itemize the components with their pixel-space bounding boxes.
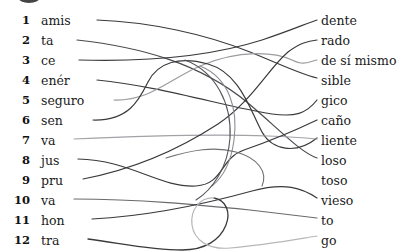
right-word-item[interactable]: toso — [321, 173, 348, 188]
right-word-column: dente rado de sí mismo sible gico caño l… — [321, 0, 402, 252]
connector-line-3[interactable] — [79, 20, 317, 60]
row-number: 4 — [0, 70, 30, 90]
left-word-item[interactable]: jus — [41, 153, 59, 168]
connector-line-1[interactable] — [97, 20, 317, 78]
connector-line-5[interactable] — [114, 54, 317, 100]
left-word-item[interactable]: pru — [41, 173, 63, 188]
left-word-item[interactable]: va — [41, 193, 56, 208]
connector-line-8[interactable] — [78, 120, 317, 186]
right-word-item[interactable]: to — [321, 213, 334, 228]
row-number: 8 — [0, 150, 30, 170]
left-word-item[interactable]: va — [41, 133, 56, 148]
row-number: 7 — [0, 130, 30, 150]
row-number: 2 — [0, 30, 30, 50]
right-word-item[interactable]: loso — [321, 153, 346, 168]
left-word-item[interactable]: ce — [41, 53, 55, 68]
connector-line-9[interactable] — [83, 40, 317, 179]
connector-line-6[interactable] — [93, 61, 317, 149]
connector-loop-b — [166, 149, 264, 186]
left-word-item[interactable]: amis — [41, 13, 71, 28]
row-number: 10 — [0, 190, 30, 210]
row-number: 5 — [0, 90, 30, 110]
right-word-item[interactable]: dente — [321, 13, 357, 28]
row-number: 9 — [0, 170, 30, 190]
right-word-item[interactable]: de sí mismo — [321, 53, 396, 68]
connector-line-12b[interactable] — [192, 198, 317, 248]
left-word-column: amis ta ce enér seguro sen va jus pru va… — [41, 0, 111, 252]
connector-line-11[interactable] — [92, 187, 317, 219]
left-word-item[interactable]: enér — [41, 73, 70, 88]
row-number: 3 — [0, 50, 30, 70]
connector-loop-c — [185, 60, 230, 200]
left-word-item[interactable]: ta — [41, 33, 53, 48]
right-word-item[interactable]: liente — [321, 133, 357, 148]
connector-loop-a — [200, 66, 235, 186]
row-number-column: 1 2 3 4 5 6 7 8 9 10 11 12 — [0, 0, 38, 252]
right-word-item[interactable]: sible — [321, 73, 351, 88]
row-number: 1 — [0, 10, 30, 30]
connector-line-4[interactable] — [97, 80, 317, 115]
right-word-item[interactable]: gico — [321, 93, 348, 108]
right-word-item[interactable]: rado — [321, 33, 350, 48]
left-word-item[interactable]: hon — [41, 213, 65, 228]
left-word-item[interactable]: seguro — [41, 93, 84, 108]
right-word-item[interactable]: vieso — [321, 193, 353, 208]
row-number: 6 — [0, 110, 30, 130]
connector-line-2[interactable] — [77, 40, 317, 158]
row-number: 11 — [0, 210, 30, 230]
left-word-item[interactable]: tra — [41, 233, 59, 248]
worksheet-page: 1 2 3 4 5 6 7 8 9 10 11 12 amis ta ce en… — [0, 0, 402, 252]
left-word-item[interactable]: sen — [41, 113, 63, 128]
right-word-item[interactable]: caño — [321, 113, 351, 128]
row-number: 12 — [0, 230, 30, 250]
right-word-item[interactable]: go — [321, 233, 337, 248]
